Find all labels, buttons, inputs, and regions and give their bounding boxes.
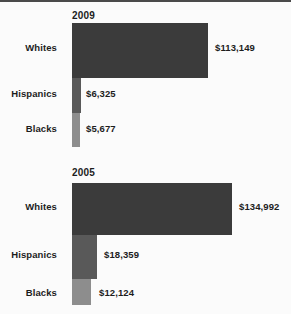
value-label-whites-2009: $113,149 xyxy=(215,42,255,53)
bar-hispanics-2009 xyxy=(72,78,81,113)
value-label-blacks-2005: $12,124 xyxy=(99,287,134,298)
bar-hispanics-2005 xyxy=(72,235,97,279)
category-label-blacks-2009: Blacks xyxy=(0,123,57,134)
value-label-blacks-2009: $5,677 xyxy=(86,123,116,134)
group-year-label-2009: 2009 xyxy=(72,10,95,21)
category-label-whites-2005: Whites xyxy=(0,201,57,212)
bar-blacks-2009 xyxy=(72,113,80,147)
value-label-whites-2005: $134,992 xyxy=(239,201,279,212)
bar-row: Whites $134,992 xyxy=(0,183,291,235)
bar-row: Hispanics $6,325 xyxy=(0,78,291,113)
bar-row: Hispanics $18,359 xyxy=(0,235,291,279)
bar-row: Blacks $12,124 xyxy=(0,279,291,305)
category-label-hispanics-2009: Hispanics xyxy=(0,88,57,99)
bar-blacks-2005 xyxy=(72,279,91,305)
category-label-whites-2009: Whites xyxy=(0,42,57,53)
bar-row: Blacks $5,677 xyxy=(0,113,291,147)
chart-group-2009: 2009 Whites $113,149 Hispanics $6,325 Bl… xyxy=(0,2,291,157)
bar-whites-2005 xyxy=(72,183,232,235)
bar-row: Whites $113,149 xyxy=(0,23,291,78)
bar-whites-2009 xyxy=(72,23,208,78)
group-year-label-2005: 2005 xyxy=(72,167,95,178)
chart-group-2005: 2005 Whites $134,992 Hispanics $18,359 B… xyxy=(0,157,291,314)
value-label-hispanics-2009: $6,325 xyxy=(86,88,116,99)
chart-container: 2009 Whites $113,149 Hispanics $6,325 Bl… xyxy=(0,0,291,314)
category-label-hispanics-2005: Hispanics xyxy=(0,249,57,260)
value-label-hispanics-2005: $18,359 xyxy=(104,249,139,260)
category-label-blacks-2005: Blacks xyxy=(0,287,57,298)
